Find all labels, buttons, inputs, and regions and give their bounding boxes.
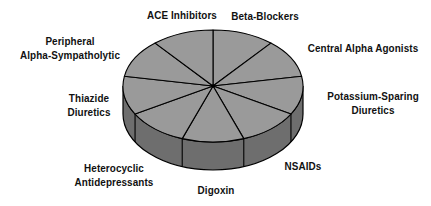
label-line: Potassium-Sparing [327,89,419,103]
label-line: Central Alpha Agonists [308,41,419,55]
label-line: ACE Inhibitors [147,8,217,22]
label-thiazide-diuretics: Thiazide Diuretics [67,91,110,119]
label-nsaids: NSAIDs [285,159,322,173]
label-line: Alpha-Sympatholytic [20,48,120,62]
label-line: Thiazide [67,91,110,105]
label-line: Antidepressants [75,175,154,189]
label-heterocyclic-antidepressants: Heterocyclic Antidepressants [75,161,154,189]
label-line: Beta-Blockers [231,9,299,23]
label-line: Diuretics [327,103,419,117]
label-central-alpha-agonists: Central Alpha Agonists [308,41,419,55]
label-line: Peripheral [20,34,120,48]
pie-center-dot [211,84,215,88]
label-line: Heterocyclic [75,161,154,175]
label-line: NSAIDs [285,159,322,173]
label-ace-inhibitors: ACE Inhibitors [147,8,217,22]
label-line: Diuretics [67,105,110,119]
label-potassium-sparing-diuretics: Potassium-Sparing Diuretics [327,89,419,117]
label-line: Digoxin [198,183,235,197]
pie-top [123,30,303,142]
label-digoxin: Digoxin [198,183,235,197]
label-peripheral-alpha-sympatholytic: Peripheral Alpha-Sympatholytic [20,34,120,62]
label-beta-blockers: Beta-Blockers [231,9,299,23]
